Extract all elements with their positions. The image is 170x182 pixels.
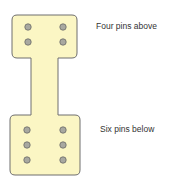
label-bottom-pins: Six pins below [100, 124, 154, 134]
pin-icon [60, 39, 66, 45]
pin-icon [60, 127, 66, 133]
pin-icon [25, 24, 31, 30]
pin-icon [24, 142, 30, 148]
label-top-pins: Four pins above [96, 21, 157, 31]
pin-icon [24, 157, 30, 163]
board-outline [10, 15, 80, 175]
pin-icon [25, 39, 31, 45]
pin-icon [60, 142, 66, 148]
pin-icon [60, 24, 66, 30]
pin-icon [24, 127, 30, 133]
pin-icon [60, 157, 66, 163]
